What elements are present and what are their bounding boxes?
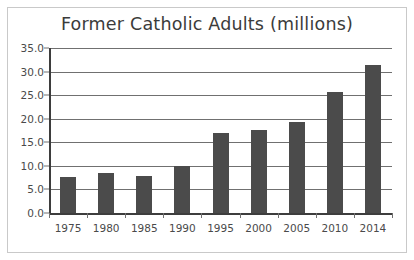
x-axis-tick-mark — [316, 213, 317, 218]
x-axis-tick-mark — [49, 213, 50, 218]
x-axis-tick-mark — [240, 213, 241, 218]
x-axis-tick-mark — [163, 213, 164, 218]
chart-title: Former Catholic Adults (millions) — [0, 14, 414, 34]
bar — [136, 176, 152, 213]
x-axis-tick-mark — [354, 213, 355, 218]
bar-chart-figure: Former Catholic Adults (millions) 0.05.0… — [0, 0, 414, 260]
bars-layer — [49, 48, 392, 213]
x-axis-tick-mark — [87, 213, 88, 218]
x-axis-tick-mark — [125, 213, 126, 218]
bar — [98, 173, 114, 213]
bar — [60, 177, 76, 213]
bar — [327, 92, 343, 213]
y-axis-tick-marks — [0, 48, 50, 213]
x-axis-tick-mark — [392, 213, 393, 218]
x-axis-line — [49, 213, 392, 215]
bar — [289, 122, 305, 213]
bar — [174, 166, 190, 213]
bar — [213, 133, 229, 213]
bar — [365, 65, 381, 213]
x-axis-tick-mark — [201, 213, 202, 218]
x-axis-tick-label: 2014 — [350, 222, 396, 234]
x-axis-tick-mark — [278, 213, 279, 218]
bar — [251, 130, 267, 213]
